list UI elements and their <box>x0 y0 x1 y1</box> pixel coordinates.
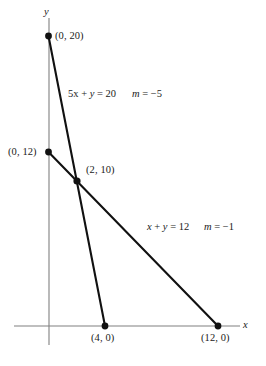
point-0-20 <box>45 33 52 40</box>
slope-label-line2: m = −1 <box>204 222 234 233</box>
point-label-0-12: (0, 12) <box>8 147 37 158</box>
slope-label-line1: m = −5 <box>132 89 162 100</box>
equation-label-line2: x + y = 12 <box>147 222 189 233</box>
point-label-4-0: (4, 0) <box>91 333 114 344</box>
point-label-2-10: (2, 10) <box>86 165 115 176</box>
line-x-plus-y-equals-12 <box>49 152 219 326</box>
y-axis-label: y <box>44 7 49 18</box>
point-12-0 <box>215 323 222 330</box>
point-label-12-0: (12, 0) <box>201 333 230 344</box>
point-2-10 <box>73 177 80 184</box>
point-label-0-20: (0, 20) <box>55 31 84 42</box>
point-4-0 <box>102 323 109 330</box>
point-0-12 <box>45 149 52 156</box>
x-axis-label: x <box>243 320 248 331</box>
figure-canvas: y x (0, 20) (0, 12) (2, 10) (4, 0) (12, … <box>0 0 266 366</box>
equation-label-line1: 5x + y = 20 <box>68 89 116 100</box>
line-graph-svg <box>0 0 266 366</box>
